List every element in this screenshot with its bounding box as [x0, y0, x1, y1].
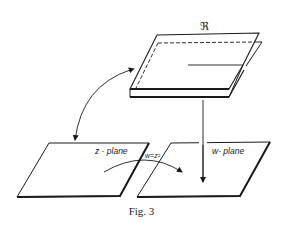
w-plane: [137, 142, 270, 197]
riemann-surface-label: ℜ: [200, 20, 209, 32]
riemann-surface: [130, 33, 262, 97]
lower-sheet: [130, 70, 244, 97]
riemann-surface-diagram: ℜ z - plane w- plane w=z²: [0, 0, 283, 227]
z-plane-label: z - plane: [94, 146, 128, 156]
z-plane: [17, 143, 149, 197]
w-plane-label: w- plane: [212, 146, 244, 156]
figure-caption: Fig. 3: [0, 205, 283, 217]
hidden-edge-dashed: [158, 42, 258, 43]
mapping-label: w=z²: [145, 152, 161, 159]
correspondence-double-arrow: [75, 70, 130, 140]
